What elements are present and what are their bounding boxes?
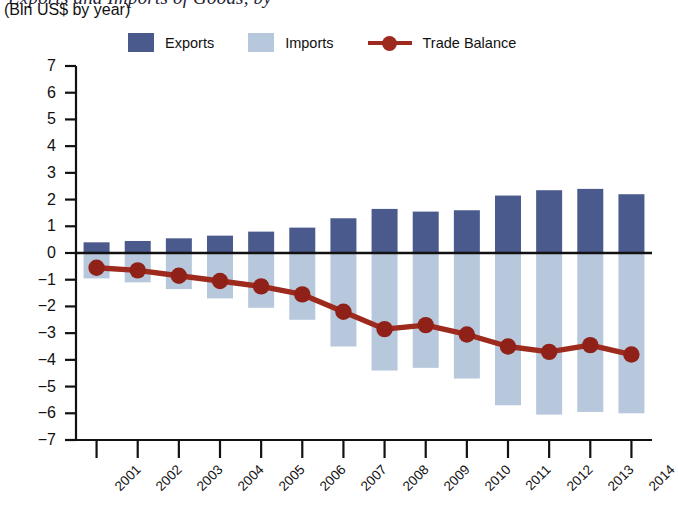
- y-axis-tick-label: 7: [26, 57, 56, 75]
- trade-balance-point: [171, 268, 187, 284]
- y-axis-tick-label: 2: [26, 191, 56, 209]
- y-axis-tick-label: −5: [26, 378, 56, 396]
- y-axis-tick-label: 0: [26, 244, 56, 262]
- trade-balance-point: [253, 278, 269, 294]
- trade-balance-point: [541, 344, 557, 360]
- trade-balance-point: [376, 321, 392, 337]
- bar-exports: [454, 210, 480, 253]
- trade-balance-point: [459, 326, 475, 342]
- y-axis-tick-label: 6: [26, 84, 56, 102]
- bar-exports: [330, 218, 356, 253]
- y-axis-tick-label: −3: [26, 324, 56, 342]
- y-axis-tick-label: −2: [26, 297, 56, 315]
- bar-exports: [618, 194, 644, 253]
- trade-balance-point: [130, 262, 146, 278]
- trade-balance-point: [500, 338, 516, 354]
- bar-exports: [84, 242, 110, 253]
- trade-balance-point: [335, 304, 351, 320]
- bar-imports: [618, 253, 644, 413]
- bar-imports: [495, 253, 521, 405]
- bar-imports: [413, 253, 439, 368]
- bar-exports: [413, 212, 439, 253]
- trade-balance-point: [418, 317, 434, 333]
- bar-imports: [454, 253, 480, 379]
- bar-exports: [125, 241, 151, 253]
- bar-exports: [207, 236, 233, 253]
- y-axis-tick-label: −1: [26, 271, 56, 289]
- y-axis-tick-label: −6: [26, 404, 56, 422]
- bar-exports: [289, 228, 315, 253]
- bar-exports: [536, 190, 562, 253]
- bar-exports: [577, 189, 603, 253]
- bar-imports: [330, 253, 356, 347]
- trade-balance-point: [88, 259, 104, 275]
- bar-imports: [372, 253, 398, 371]
- bar-exports: [372, 209, 398, 253]
- bar-exports: [248, 232, 274, 253]
- y-axis-tick-label: −7: [26, 431, 56, 449]
- y-axis-tick-label: 5: [26, 110, 56, 128]
- y-axis-tick-label: 3: [26, 164, 56, 182]
- y-axis-tick-label: 1: [26, 217, 56, 235]
- bar-exports: [166, 238, 192, 253]
- trade-balance-point: [623, 346, 639, 362]
- y-axis-tick-label: −4: [26, 351, 56, 369]
- trade-balance-point: [582, 337, 598, 353]
- y-axis-tick-label: 4: [26, 137, 56, 155]
- bar-exports: [495, 196, 521, 253]
- trade-balance-point: [212, 273, 228, 289]
- trade-balance-point: [294, 286, 310, 302]
- bar-imports: [536, 253, 562, 415]
- bar-imports: [577, 253, 603, 412]
